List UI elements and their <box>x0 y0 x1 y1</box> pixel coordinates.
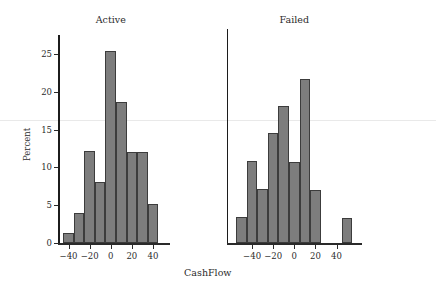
x-tick-mark-failed-40 <box>337 245 338 249</box>
x-tick-mark-failed--20 <box>273 245 274 249</box>
bar-failed-0 <box>236 217 247 243</box>
x-tick-mark-active-40 <box>153 245 154 249</box>
chart-canvas: Active Failed Percent CashFlow 051015202… <box>0 0 436 293</box>
bar-active-1 <box>74 213 85 243</box>
y-tick-label-10: 10 <box>28 162 52 172</box>
bar-failed-3 <box>268 133 279 243</box>
y-tick-mark-5 <box>54 205 58 206</box>
bar-failed-2 <box>257 189 268 243</box>
bar-failed-10 <box>342 218 353 243</box>
bar-failed-4 <box>278 106 289 243</box>
bar-failed-6 <box>300 79 311 243</box>
x-tick-mark-active-0 <box>111 245 112 249</box>
y-tick-mark-10 <box>54 167 58 168</box>
y-tick-label-15: 15 <box>28 125 52 135</box>
y-tick-label-0: 0 <box>28 238 52 248</box>
y-tick-label-25: 25 <box>28 49 52 59</box>
bar-failed-1 <box>247 161 258 243</box>
y-tick-mark-0 <box>54 243 58 244</box>
x-tick-mark-active-20 <box>132 245 133 249</box>
panel-title-active: Active <box>71 14 151 25</box>
panel-divider-line <box>227 29 228 243</box>
bar-active-5 <box>116 102 127 243</box>
x-axis-label: CashFlow <box>158 267 258 278</box>
bar-active-6 <box>127 152 138 243</box>
x-tick-mark-failed--40 <box>252 245 253 249</box>
y-axis-spine-active <box>58 35 60 243</box>
y-tick-label-5: 5 <box>28 200 52 210</box>
y-tick-mark-25 <box>54 54 58 55</box>
y-tick-label-20: 20 <box>28 87 52 97</box>
x-tick-label-active-40: 40 <box>137 251 169 261</box>
y-tick-mark-20 <box>54 92 58 93</box>
y-tick-mark-15 <box>54 130 58 131</box>
x-tick-label-failed-40: 40 <box>321 251 353 261</box>
x-tick-mark-active--20 <box>90 245 91 249</box>
bar-active-3 <box>95 182 106 243</box>
bar-active-0 <box>63 233 74 243</box>
bar-active-2 <box>84 151 95 243</box>
bar-active-8 <box>148 204 159 243</box>
bar-failed-5 <box>289 162 300 243</box>
x-tick-mark-active--40 <box>69 245 70 249</box>
x-tick-mark-failed-20 <box>315 245 316 249</box>
x-tick-mark-failed-0 <box>294 245 295 249</box>
bar-active-7 <box>137 152 148 243</box>
bar-failed-7 <box>310 190 321 243</box>
reference-line <box>0 120 436 121</box>
panel-title-failed: Failed <box>254 14 334 25</box>
bar-active-4 <box>105 51 116 243</box>
